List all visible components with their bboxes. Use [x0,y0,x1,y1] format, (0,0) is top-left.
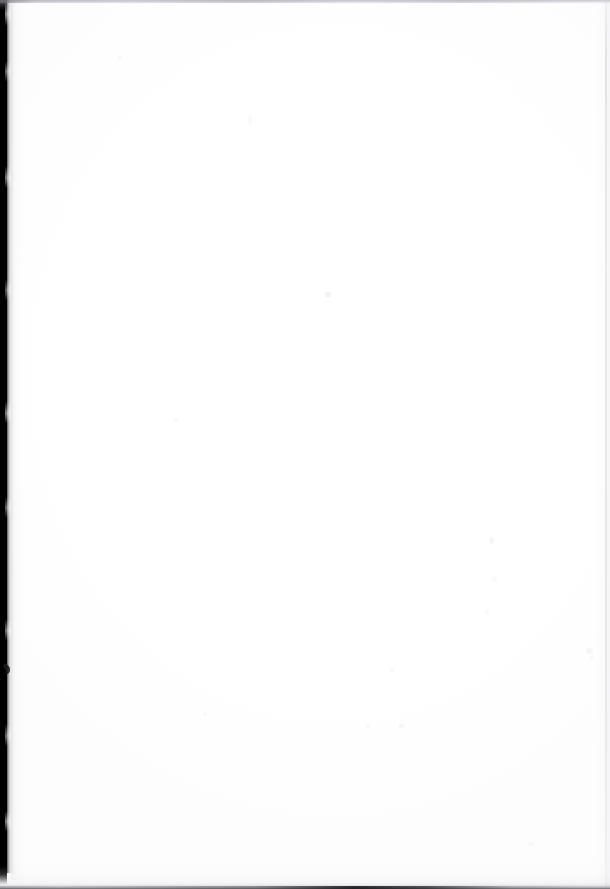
binding-gutter [0,0,7,871]
right-edge-line [605,2,607,886]
top-edge-line [0,0,610,4]
right-edge-wash [594,0,610,889]
gutter-falloff [6,0,15,873]
bottom-edge-shadow [0,883,610,889]
scanned-page [0,0,610,889]
gutter-smudge-mark [3,663,14,676]
page-body-text [60,60,560,820]
